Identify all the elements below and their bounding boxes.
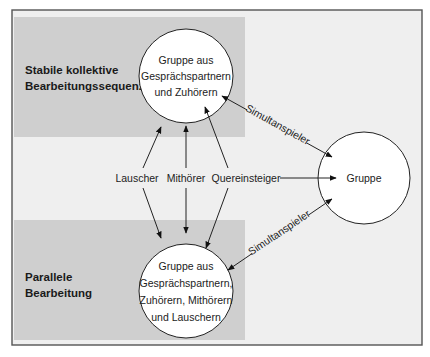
top-node-line3: und Zuhörern xyxy=(154,86,217,98)
node-bottom-group xyxy=(139,244,233,338)
band-label-parallel-line2: Bearbeitung xyxy=(25,287,92,299)
bottom-node-line2: Gesprächspartnern, xyxy=(140,277,233,289)
bottom-node-line1: Gruppe aus xyxy=(159,260,214,272)
edge-label-mithoerer: Mithörer xyxy=(167,172,206,184)
band-label-stable-line2: Bearbeitungssequenz xyxy=(25,80,145,92)
right-node-label: Gruppe xyxy=(346,172,381,184)
bottom-node-line3: Zuhörern, Mithörern xyxy=(140,294,233,306)
edge-label-quereinsteiger: Quereinsteiger xyxy=(212,172,281,184)
band-label-stable-line1: Stabile kollektive xyxy=(25,64,118,76)
diagram-canvas: Stabile kollektive Bearbeitungssequenz P… xyxy=(0,0,430,357)
top-node-line1: Gruppe aus xyxy=(159,54,214,66)
band-label-parallel-line1: Parallele xyxy=(25,271,72,283)
top-node-line2: Gesprächspartnern xyxy=(141,70,231,82)
bottom-node-line4: und Lauschern xyxy=(151,311,221,323)
edge-label-lauscher: Lauscher xyxy=(115,172,159,184)
